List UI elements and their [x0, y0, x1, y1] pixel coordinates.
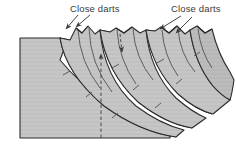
pattern-diagram: Close darts Close darts — [0, 0, 236, 158]
close-darts-left-text: Close darts — [70, 3, 120, 14]
label-close-darts-right: Close darts — [160, 3, 221, 33]
label-close-darts-left: Close darts — [66, 3, 120, 29]
close-darts-right-text: Close darts — [171, 3, 221, 14]
close-darts-left-arrow-2 — [76, 15, 90, 27]
diagram-canvas: Close darts Close darts — [0, 0, 236, 158]
